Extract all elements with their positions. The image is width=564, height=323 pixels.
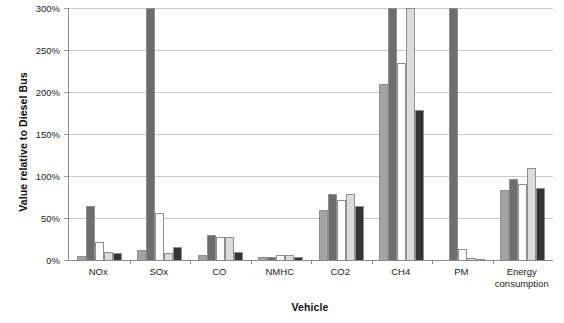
bar-group (372, 8, 433, 260)
bar-group (251, 8, 312, 260)
bar (406, 8, 415, 260)
x-axis-tick-label: SOx (150, 266, 168, 278)
y-axis-tick-label: 250% (36, 45, 60, 56)
bar (234, 252, 243, 260)
bar-chart: Value relative to Diesel Bus 0%50%100%15… (0, 0, 564, 323)
bar (216, 237, 225, 260)
bar-group (190, 8, 251, 260)
x-axis-tick-mark (130, 260, 131, 264)
y-axis-tick-label: 300% (36, 3, 60, 14)
plot-area (68, 8, 553, 261)
bar (86, 206, 95, 260)
bar (294, 257, 303, 260)
bar-group (130, 8, 191, 260)
bar (77, 256, 86, 260)
bar (137, 250, 146, 260)
x-axis-tick-label: CO (212, 266, 226, 278)
bar (173, 247, 182, 260)
bar (146, 8, 155, 260)
x-axis-tick-label: PM (454, 266, 468, 278)
bar (467, 258, 476, 260)
bar (207, 235, 216, 260)
y-axis-tick-labels: 0%50%100%150%200%250%300% (22, 8, 64, 260)
y-axis-tick-label: 200% (36, 87, 60, 98)
x-axis-tick-label: CO2 (330, 266, 350, 278)
bar (337, 200, 346, 260)
bar (198, 255, 207, 260)
bar (397, 63, 406, 260)
bar (518, 184, 527, 260)
bar (319, 210, 328, 260)
x-axis-tick-mark (493, 260, 494, 264)
bar-group (311, 8, 372, 260)
bar (458, 249, 467, 260)
bar (449, 8, 458, 260)
x-axis-tick-mark (311, 260, 312, 264)
bar (415, 110, 424, 260)
bar (355, 206, 364, 260)
bar (285, 255, 294, 260)
bar (164, 253, 173, 260)
x-axis-tick-mark (432, 260, 433, 264)
x-axis-tick-mark (251, 260, 252, 264)
x-axis-tick-labels: NOxSOxCONMHCCO2CH4PMEnergy consumption (68, 266, 552, 300)
x-axis-tick-label: NOx (89, 266, 108, 278)
y-axis-tick-label: 0% (46, 255, 60, 266)
bar (509, 179, 518, 260)
bar (476, 259, 485, 260)
y-axis-tick-label: 50% (41, 213, 60, 224)
x-axis-tick-mark (190, 260, 191, 264)
bar (346, 194, 355, 260)
x-axis-tick-mark (372, 260, 373, 264)
x-axis-tick-label: CH4 (391, 266, 410, 278)
x-axis-tick-label: NMHC (266, 266, 295, 278)
bar (258, 257, 267, 260)
bar (155, 213, 164, 260)
bar (276, 255, 285, 260)
y-axis-tick-label: 100% (36, 171, 60, 182)
bar (267, 257, 276, 260)
bar (95, 242, 104, 260)
bar (104, 252, 113, 260)
bar (536, 188, 545, 260)
y-axis-tick-label: 150% (36, 129, 60, 140)
bar (388, 8, 397, 260)
bar-group (69, 8, 130, 260)
bar (113, 253, 122, 260)
x-axis-title: Vehicle (68, 301, 552, 313)
bar (379, 84, 388, 260)
bar (328, 194, 337, 260)
bar (500, 190, 509, 260)
x-axis-tick-label: Energy consumption (495, 266, 549, 289)
bar-group (493, 8, 554, 260)
bar (527, 168, 536, 260)
bar-group (432, 8, 493, 260)
bars-layer (69, 8, 553, 260)
bar (225, 237, 234, 260)
